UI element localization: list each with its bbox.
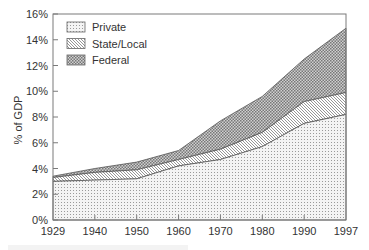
y-tick-label: 8% [32, 111, 48, 123]
x-tick-label: 1990 [292, 225, 316, 237]
area-private [53, 114, 346, 220]
legend-label: Private [92, 21, 126, 33]
legend: PrivateState/LocalFederal [67, 21, 147, 66]
x-tick-label: 1997 [334, 225, 358, 237]
legend-label: Federal [92, 54, 129, 66]
y-tick-label: 6% [32, 137, 48, 149]
x-tick-label: 1970 [208, 225, 232, 237]
x-tick-label: 1929 [41, 225, 65, 237]
stacked-area-chart: 0%2%4%6%8%10%12%14%16% 19291940195019601… [0, 0, 369, 250]
y-axis-title: % of GDP [12, 96, 24, 145]
y-tick-label: 12% [26, 60, 48, 72]
x-tick-label: 1950 [124, 225, 148, 237]
legend-swatch-federal [67, 55, 85, 65]
y-tick-label: 14% [26, 34, 48, 46]
y-tick-label: 4% [32, 163, 48, 175]
y-tick-label: 16% [26, 8, 48, 20]
y-tick-label: 2% [32, 188, 48, 200]
legend-label: State/Local [92, 38, 147, 50]
legend-swatch-private [67, 22, 85, 32]
legend-swatch-state-local [67, 39, 85, 49]
x-tick-label: 1960 [166, 225, 190, 237]
y-tick-label: 10% [26, 85, 48, 97]
cropped-caption-strip [8, 245, 188, 250]
x-tick-label: 1940 [83, 225, 107, 237]
x-tick-label: 1980 [250, 225, 274, 237]
